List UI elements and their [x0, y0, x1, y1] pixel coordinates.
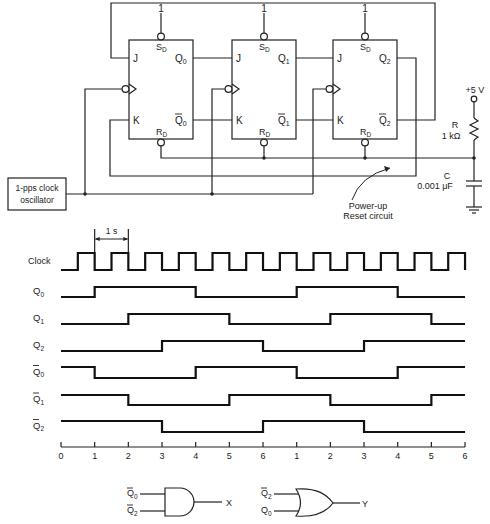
supply-terminal-icon: [471, 96, 477, 102]
k-input-label: K: [236, 115, 243, 126]
preset-value: 1: [261, 3, 267, 14]
flip-flop-0: 1SDRDJKQ0Q0: [122, 3, 193, 146]
q0bar-waveform: [61, 367, 465, 378]
gate-input-main: Q: [127, 505, 134, 515]
j-input-label: J: [133, 53, 138, 64]
q0-waveform: [61, 287, 465, 297]
signal-label-sub: 0: [40, 291, 44, 298]
j-input-label: J: [337, 53, 342, 64]
arrowhead-icon: [95, 237, 100, 241]
johnson-counter-circuit: 1SDRDJKQ0Q01SDRDJKQ1Q11SDRDJKQ2Q21-pps c…: [8, 3, 484, 221]
signal-label-main: Q: [33, 312, 40, 323]
j-input-label: J: [236, 53, 241, 64]
rd-sub: D: [163, 131, 168, 138]
supply-voltage-label: +5 V: [466, 85, 485, 95]
preset-value: 1: [158, 3, 164, 14]
rd-sub: D: [367, 131, 372, 138]
inversion-bubble: [122, 86, 129, 93]
signal-label-sub: 0: [40, 371, 44, 378]
gate-input-label: Q0: [261, 505, 272, 517]
signal-label: Q1: [33, 393, 44, 406]
q1bar-waveform: [61, 395, 465, 405]
or-output-label: Y: [362, 499, 368, 509]
axis-tick-label: 2: [126, 451, 131, 461]
signal-label-main: Q: [33, 285, 40, 296]
gate-input-main: Q: [127, 488, 134, 498]
signal-label-clock: Clock: [28, 256, 51, 266]
reset-note-1: Power-up: [349, 201, 388, 211]
signal-label-main: Q: [33, 339, 40, 350]
gate-input-main: Q: [261, 505, 268, 515]
q-sub: 2: [387, 58, 391, 65]
sd-sub: D: [265, 46, 270, 53]
axis-tick-label: 4: [395, 451, 400, 461]
qbar-sub: 1: [286, 120, 290, 127]
gate-input-sub: 2: [134, 510, 138, 517]
sd-sub: D: [162, 46, 167, 53]
and-gate: Q0Q2X: [127, 488, 232, 517]
signal-label-main: Q: [33, 393, 40, 404]
signal-label-sub: 2: [40, 425, 44, 432]
inversion-bubble: [362, 33, 369, 40]
capacitor-value: 0.001 μF: [417, 181, 453, 191]
arrowhead-icon: [123, 237, 128, 241]
inversion-bubble: [225, 86, 232, 93]
qbar-sub: 0: [183, 120, 187, 127]
axis-tick-label: 3: [160, 451, 165, 461]
oscillator-label-2: oscillator: [20, 195, 54, 205]
axis-tick-label: 4: [193, 451, 198, 461]
inversion-bubble: [158, 33, 165, 40]
signal-label-sub: 1: [40, 318, 44, 325]
clock-to-ff2: [313, 89, 326, 194]
signal-label: Q0: [33, 366, 44, 379]
preset-value: 1: [362, 3, 368, 14]
qbar-sub: 2: [387, 120, 391, 127]
reset-note-2: Reset circuit: [343, 211, 393, 221]
flip-flop-2: 1SDRDJKQ2Q2: [326, 3, 397, 146]
signal-label: Q2: [33, 420, 44, 433]
inversion-bubble: [261, 139, 268, 146]
resistor-name: R: [452, 120, 459, 130]
axis-tick-label: 5: [227, 451, 232, 461]
k-input-label: K: [133, 115, 140, 126]
signal-label-sub: 2: [40, 345, 44, 352]
decode-gates: Q0Q2XQ2Q0Y: [127, 488, 368, 517]
clock-to-ff0: [85, 89, 122, 194]
inversion-bubble: [261, 33, 268, 40]
pointer-arrow: [352, 168, 390, 200]
signal-label: Q0: [33, 285, 44, 298]
junction-dot: [83, 192, 87, 196]
axis-tick-label: 1: [92, 451, 97, 461]
clock-to-ff1: [212, 89, 225, 194]
resistor-value: 1 kΩ: [442, 131, 461, 141]
inversion-bubble: [326, 86, 333, 93]
q1-waveform: [61, 314, 465, 324]
axis-tick-label: 6: [261, 451, 266, 461]
signal-label: Q1: [33, 312, 44, 325]
axis-tick-label: 0: [58, 451, 63, 461]
sd-sub: D: [366, 46, 371, 53]
resistor-icon: [470, 118, 478, 140]
gate-input-label: Q2: [127, 505, 138, 517]
diagram-canvas: 1SDRDJKQ0Q01SDRDJKQ1Q11SDRDJKQ2Q21-pps c…: [0, 0, 490, 524]
k-input-label: K: [337, 115, 344, 126]
reset-bus: [161, 146, 474, 158]
gate-input-sub: 0: [134, 493, 138, 500]
capacitor-name: C: [444, 171, 451, 181]
signal-label-main: Q: [33, 420, 40, 431]
gate-input-main: Q: [261, 488, 268, 498]
axis-tick-label: 2: [328, 451, 333, 461]
junction-dot: [210, 192, 214, 196]
signal-label-main: Q: [33, 366, 40, 377]
or-gate: Q2Q0Y: [261, 488, 368, 517]
period-label: 1 s: [106, 226, 117, 236]
junction-dot: [363, 156, 367, 160]
or-gate-icon: [296, 489, 333, 516]
q-sub: 0: [183, 58, 187, 65]
axis-tick-label: 3: [362, 451, 367, 461]
inversion-bubble: [158, 139, 165, 146]
axis-tick-label: 1: [294, 451, 299, 461]
q2-waveform: [61, 341, 465, 351]
inversion-bubble: [362, 139, 369, 146]
clock-waveform: [61, 253, 465, 270]
